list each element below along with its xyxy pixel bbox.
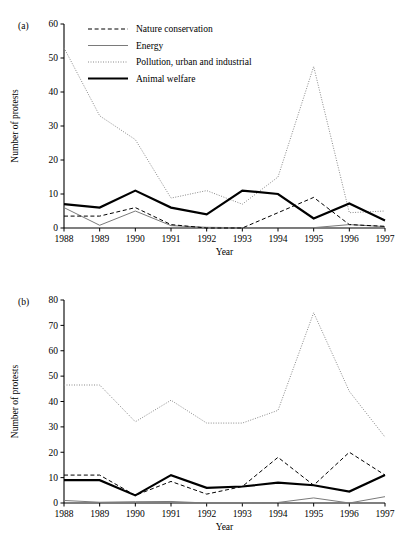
legend-label-3: Animal welfare [136, 74, 195, 84]
x-axis-tick-label: 1991 [162, 234, 181, 244]
panel-label: (a) [18, 21, 29, 32]
x-axis-tick-label: 1991 [162, 509, 181, 519]
legend-label-2: Pollution, urban and industrial [136, 57, 252, 67]
x-axis-tick-label: 1989 [90, 234, 109, 244]
y-axis-tick-label: 0 [53, 498, 58, 508]
y-axis-tick-label: 30 [49, 422, 59, 432]
y-axis-tick-label: 40 [49, 397, 59, 407]
x-axis-tick-label: 1993 [233, 234, 252, 244]
y-axis-tick-label: 60 [49, 346, 59, 356]
y-axis-tick-label: 70 [49, 321, 59, 331]
legend-label-1: Energy [136, 41, 164, 51]
x-axis-tick-label: 1994 [269, 509, 288, 519]
series-line-animal-welfare [64, 191, 385, 221]
y-axis-tick-label: 10 [49, 189, 59, 199]
y-axis-tick-label: 0 [53, 223, 58, 233]
chart-panel-b: (b)0102030405060708019881989199019911992… [0, 280, 408, 551]
chart-a-svg: (a)0102030405060198819891990199119921993… [0, 0, 408, 280]
series-line-animal-welfare [64, 475, 385, 495]
chart-panel-a: (a)0102030405060198819891990199119921993… [0, 0, 408, 280]
x-axis-tick-label: 1990 [126, 509, 145, 519]
y-axis-tick-label: 30 [49, 121, 59, 131]
chart-b-svg: (b)0102030405060708019881989199019911992… [0, 280, 408, 551]
panel-label: (b) [18, 297, 29, 308]
x-axis-tick-label: 1992 [197, 509, 216, 519]
x-axis-tick-label: 1992 [197, 234, 216, 244]
y-axis-tick-label: 50 [49, 53, 59, 63]
x-axis-tick-label: 1995 [304, 234, 323, 244]
y-axis-tick-label: 10 [49, 473, 59, 483]
x-axis-tick-label: 1989 [90, 509, 109, 519]
x-axis-tick-label: 1990 [126, 234, 145, 244]
series-line-pollution-urban-and-industrial [64, 48, 385, 213]
x-axis-tick-label: 1994 [269, 234, 288, 244]
x-axis-tick-label: 1993 [233, 509, 252, 519]
x-axis-tick-label: 1995 [304, 509, 323, 519]
y-axis-tick-label: 20 [49, 155, 59, 165]
y-axis-title: Number of protests [10, 89, 20, 163]
series-line-energy [64, 497, 385, 503]
y-axis-tick-label: 20 [49, 448, 59, 458]
x-axis-tick-label: 1988 [55, 509, 74, 519]
x-axis-title: Year [216, 522, 234, 532]
y-axis-tick-label: 40 [49, 87, 59, 97]
x-axis-tick-label: 1996 [340, 234, 359, 244]
x-axis-tick-label: 1996 [340, 509, 359, 519]
y-axis-title: Number of protests [10, 365, 20, 439]
legend-label-0: Nature conservation [136, 24, 213, 34]
series-line-energy [64, 208, 385, 228]
y-axis-tick-label: 60 [49, 19, 59, 29]
x-axis-tick-label: 1997 [376, 509, 395, 519]
y-axis-tick-label: 50 [49, 371, 59, 381]
x-axis-tick-label: 1997 [376, 234, 395, 244]
series-line-pollution-urban-and-industrial [64, 313, 385, 437]
x-axis-tick-label: 1988 [55, 234, 74, 244]
y-axis-tick-label: 80 [49, 295, 59, 305]
x-axis-title: Year [216, 247, 234, 257]
figure-container: (a)0102030405060198819891990199119921993… [0, 0, 408, 551]
